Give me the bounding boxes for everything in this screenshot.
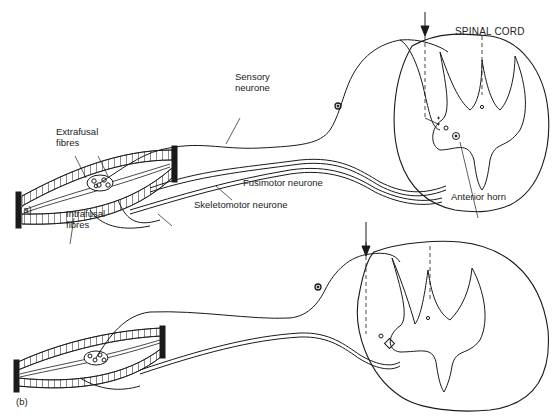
skeletomotor-label: Skeletomotor neurone bbox=[194, 199, 287, 210]
sensory-neurone-a bbox=[100, 40, 448, 183]
fusimotor-label: Fusimotor neurone bbox=[243, 177, 323, 188]
panel-a-label: (a) bbox=[20, 204, 32, 215]
spinal-cord-title: SPINAL CORD bbox=[455, 26, 525, 37]
spinal-cord-outline-b bbox=[357, 241, 548, 411]
grey-matter-a bbox=[433, 52, 526, 190]
anterior-horn-label: Anterior horn bbox=[451, 191, 506, 202]
spinal-cord-outline-a bbox=[394, 34, 549, 212]
intrafusal-label-line1: Intrafusal bbox=[66, 208, 105, 219]
panel-b bbox=[14, 222, 548, 411]
panel-b-label: (b) bbox=[16, 396, 28, 407]
sensory-label-line1: Sensory bbox=[235, 71, 270, 82]
sensory-neurone-b bbox=[96, 253, 400, 358]
sensory-label-line2: neurone bbox=[235, 82, 270, 93]
extrafusal-label-line1: Extrafusal bbox=[56, 126, 98, 137]
extrafusal-label-line2: fibres bbox=[56, 137, 79, 148]
grey-matter-b bbox=[390, 258, 485, 392]
muscle-b bbox=[14, 326, 165, 392]
intrafusal-label-line2: fibres bbox=[66, 219, 89, 230]
